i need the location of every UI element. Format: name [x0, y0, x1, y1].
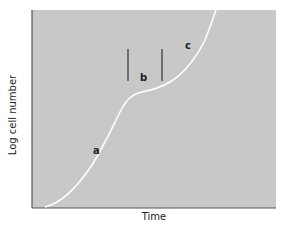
y-axis-label: Log cell number [2, 60, 22, 170]
annotation-a: a [93, 145, 100, 156]
plot-area [32, 10, 276, 208]
y-axis-label-text: Log cell number [7, 75, 18, 155]
growth-chart [0, 0, 289, 226]
annotation-c: c [185, 40, 191, 51]
x-axis-label: Time [32, 211, 276, 222]
annotation-b: b [140, 72, 147, 83]
